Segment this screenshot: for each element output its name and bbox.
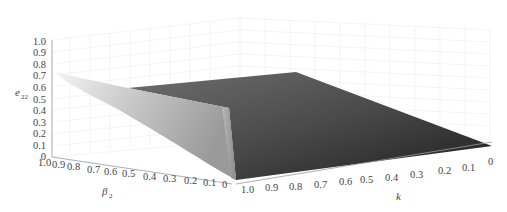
k-axis-label: k bbox=[396, 190, 402, 202]
svg-text:0.8: 0.8 bbox=[67, 161, 80, 172]
svg-text:0.9: 0.9 bbox=[265, 182, 278, 193]
svg-text:0.3: 0.3 bbox=[410, 169, 423, 180]
z-axis-label: e 22 bbox=[15, 86, 29, 101]
beta2-axis-label: β 2 bbox=[101, 185, 113, 200]
svg-text:0.8: 0.8 bbox=[33, 59, 46, 70]
svg-text:0.6: 0.6 bbox=[33, 82, 46, 93]
svg-text:0.5: 0.5 bbox=[33, 94, 46, 105]
svg-text:0.9: 0.9 bbox=[33, 47, 46, 58]
svg-text:0.7: 0.7 bbox=[87, 164, 100, 175]
svg-text:22: 22 bbox=[21, 93, 29, 101]
svg-text:1.0: 1.0 bbox=[33, 36, 46, 47]
svg-text:0.8: 0.8 bbox=[289, 181, 302, 192]
svg-text:1.0: 1.0 bbox=[241, 184, 254, 195]
svg-text:e: e bbox=[15, 86, 20, 98]
svg-text:0.4: 0.4 bbox=[143, 171, 157, 182]
surface bbox=[55, 72, 492, 180]
svg-text:0.5: 0.5 bbox=[122, 168, 135, 179]
svg-text:0.2: 0.2 bbox=[184, 175, 197, 186]
svg-text:0.4: 0.4 bbox=[33, 105, 47, 116]
svg-text:0.7: 0.7 bbox=[314, 179, 327, 190]
svg-text:0.6: 0.6 bbox=[104, 166, 117, 177]
svg-text:0.5: 0.5 bbox=[360, 174, 373, 185]
svg-text:0.1: 0.1 bbox=[33, 140, 46, 151]
svg-text:0.1: 0.1 bbox=[203, 177, 216, 188]
surface-plot: 0 0.1 0.2 0.3 0.4 0.5 0.6 0.7 0.8 0.9 1.… bbox=[0, 0, 507, 212]
svg-text:1.0: 1.0 bbox=[38, 157, 51, 168]
svg-text:0.3: 0.3 bbox=[163, 173, 176, 184]
svg-text:0.6: 0.6 bbox=[339, 176, 352, 187]
svg-text:k: k bbox=[396, 190, 402, 202]
svg-text:0.2: 0.2 bbox=[438, 165, 451, 176]
svg-text:0: 0 bbox=[488, 156, 493, 167]
svg-text:2: 2 bbox=[109, 192, 113, 200]
svg-text:0.9: 0.9 bbox=[52, 159, 65, 170]
z-axis-ticks: 0 0.1 0.2 0.3 0.4 0.5 0.6 0.7 0.8 0.9 1.… bbox=[33, 36, 47, 162]
svg-text:0.3: 0.3 bbox=[33, 117, 46, 128]
svg-text:0.2: 0.2 bbox=[33, 128, 46, 139]
svg-text:0.1: 0.1 bbox=[462, 162, 475, 173]
svg-text:0.7: 0.7 bbox=[33, 70, 46, 81]
svg-text:0: 0 bbox=[222, 179, 227, 190]
beta2-axis-ticks: 1.0 0.9 0.8 0.7 0.6 0.5 0.4 0.3 0.2 0.1 … bbox=[38, 157, 227, 190]
svg-text:0.4: 0.4 bbox=[385, 172, 399, 183]
svg-text:β: β bbox=[101, 185, 108, 197]
